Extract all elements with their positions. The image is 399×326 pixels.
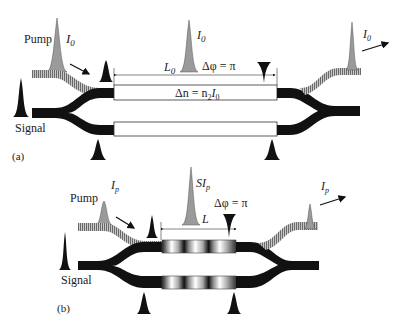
upper-grating-arm <box>162 240 236 253</box>
lower-grating-arm <box>162 276 236 289</box>
length-label: L0 <box>163 60 176 76</box>
pump-label: Pump <box>24 32 52 46</box>
pump-output-waveguide <box>300 68 361 95</box>
pump-output-pulse-icon <box>346 22 358 70</box>
arm-intensity-label: SIp <box>196 176 210 192</box>
pump-intensity-label: I0 <box>65 31 75 48</box>
signal-pulse-lower-left-icon <box>137 292 151 314</box>
signal-pulse-lower-right-icon <box>264 139 280 160</box>
mzi-switch-diagram: Pump I0 Signal (a) L0 I0 Δφ = π Δn = n2I… <box>0 0 399 326</box>
control-pulse-icon <box>146 215 158 238</box>
index-change-label: Δn = n2I0 <box>175 86 219 102</box>
length-label: L <box>201 212 209 226</box>
phase-shift-label: Δφ = π <box>202 59 235 73</box>
output-combiner-waveguide <box>236 242 319 288</box>
signal-pulse-lower-left-icon <box>90 139 106 160</box>
control-pulse-icon <box>99 60 113 82</box>
pump-label: Pump <box>70 191 98 205</box>
pump-pulse-icon <box>96 201 112 225</box>
phase-shift-label: Δφ = π <box>214 196 247 210</box>
phase-shifted-pulse-icon <box>223 214 236 238</box>
panel-a: Pump I0 Signal (a) L0 I0 Δφ = π Δn = n2I… <box>12 18 388 163</box>
output-intensity-label: Ip <box>320 179 329 195</box>
output-direction-arrow <box>362 43 388 51</box>
signal-pulse-icon <box>13 78 29 117</box>
panel-b: Pump Ip Signal (b) L SIp Δφ = π Ip <box>57 167 345 315</box>
signal-label: Signal <box>61 273 92 287</box>
output-combiner-waveguide <box>277 88 360 135</box>
pump-intensity-label: Ip <box>110 178 119 194</box>
panel-b-tag: (b) <box>57 302 70 315</box>
lower-arm-waveguide <box>114 122 277 136</box>
pump-direction-arrow <box>116 217 134 228</box>
pump-direction-arrow <box>70 64 89 74</box>
signal-label: Signal <box>15 121 46 135</box>
pump-pulse-in-arm-icon <box>180 20 198 72</box>
output-direction-arrow <box>320 197 345 205</box>
signal-pulse-lower-right-icon <box>227 292 241 314</box>
phase-shifted-pulse-icon <box>257 62 271 83</box>
signal-pulse-icon <box>59 232 71 270</box>
panel-a-tag: (a) <box>12 150 25 163</box>
output-intensity-label: I0 <box>362 27 371 43</box>
arm-intensity-label: I0 <box>196 28 206 44</box>
